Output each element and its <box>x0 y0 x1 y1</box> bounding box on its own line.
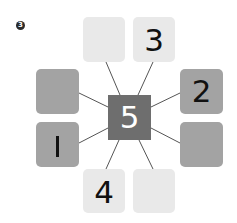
tile-bottom-left: 4 <box>83 169 125 213</box>
tile-center-label: 5 <box>120 102 140 133</box>
tile-left-lower-label: 1 <box>56 136 59 157</box>
tile-top-right: 3 <box>133 17 175 62</box>
tile-center: 5 <box>108 95 151 140</box>
tile-top-left <box>83 17 125 62</box>
tile-left-lower: 1 <box>36 122 79 167</box>
tile-right-lower <box>180 122 223 167</box>
connector-bottom-left <box>106 140 119 169</box>
tile-right-upper: 2 <box>180 69 223 114</box>
tile-bottom-left-label: 4 <box>94 177 114 208</box>
connector-left-upper <box>79 93 108 107</box>
connector-top-left <box>106 62 120 95</box>
connector-bottom-right <box>139 140 153 169</box>
tile-top-right-label: 3 <box>144 25 164 56</box>
connector-left-lower <box>79 128 108 143</box>
tile-right-upper-label: 2 <box>192 76 212 107</box>
connector-right-upper <box>151 93 180 107</box>
connector-right-lower <box>151 128 180 143</box>
tile-bottom-right <box>133 169 175 213</box>
tile-left-upper <box>36 69 79 114</box>
connector-top-right <box>138 62 153 95</box>
